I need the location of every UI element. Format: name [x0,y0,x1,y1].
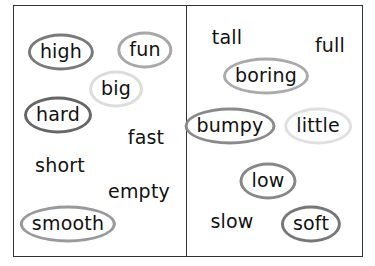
circled-word-high: high [28,34,94,71]
word-slow: slow [210,212,253,231]
circled-word-big: big [89,71,143,108]
word-tall: tall [212,28,242,47]
word-fast: fast [128,128,164,147]
word-full: full [315,36,345,55]
circled-word-smooth: smooth [20,206,116,243]
circled-word-little: little [284,108,352,145]
circled-word-soft: soft [281,206,341,243]
word-short: short [35,156,85,175]
circled-word-boring: boring [223,58,309,95]
circled-word-bumpy: bumpy [185,108,276,145]
circled-word-fun: fun [117,32,172,69]
circled-word-hard: hard [24,97,92,134]
circled-word-low: low [239,163,296,200]
word-empty: empty [108,182,170,201]
